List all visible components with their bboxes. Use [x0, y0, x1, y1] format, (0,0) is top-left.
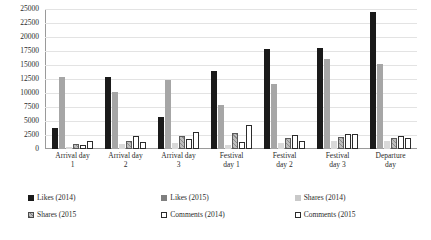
- bar-group: [311, 9, 364, 149]
- x-tick-label: Festivalday 3: [311, 151, 364, 169]
- bar-group: [364, 9, 417, 149]
- bar-group: [152, 9, 205, 149]
- legend-item[interactable]: Comments (2014): [161, 206, 294, 223]
- y-tick-label: 12500: [20, 75, 39, 83]
- bar: [112, 92, 118, 149]
- bar: [126, 141, 132, 149]
- legend-item[interactable]: Shares (2014): [295, 189, 428, 206]
- legend-swatch-icon: [295, 195, 301, 201]
- bar: [271, 84, 277, 149]
- y-tick-label: 15000: [20, 61, 39, 69]
- bar: [331, 141, 337, 149]
- y-tick-label: 2500: [24, 131, 39, 139]
- bar: [225, 145, 231, 149]
- bar: [246, 125, 252, 149]
- bar: [299, 141, 305, 149]
- bar: [398, 136, 404, 149]
- bar: [140, 142, 146, 149]
- legend-item[interactable]: Comments (2015: [295, 206, 428, 223]
- legend-label: Shares (2014): [304, 193, 346, 202]
- bar: [133, 136, 139, 149]
- bar: [165, 80, 171, 149]
- bar: [73, 144, 79, 149]
- x-axis-labels: Arrival day1Arrival day2Arrival day3Fest…: [46, 151, 417, 169]
- x-tick-label: Arrival day1: [46, 151, 99, 169]
- chart-legend: Likes (2014)Likes (2015)Shares (2014)Sha…: [28, 189, 428, 223]
- legend-swatch-icon: [161, 212, 167, 218]
- bar: [186, 139, 192, 149]
- legend-label: Likes (2014): [37, 193, 76, 202]
- bar: [87, 141, 93, 149]
- bar: [239, 142, 245, 149]
- bar: [119, 144, 125, 149]
- bar: [405, 138, 411, 149]
- legend-item[interactable]: Likes (2014): [28, 189, 161, 206]
- bar: [179, 136, 185, 149]
- bar: [317, 48, 323, 149]
- legend-swatch-icon: [161, 195, 167, 201]
- bar: [324, 59, 330, 149]
- legend-swatch-icon: [295, 212, 301, 218]
- y-tick-label: 20000: [20, 33, 39, 41]
- bar: [377, 64, 383, 149]
- bar: [345, 134, 351, 149]
- x-tick-label: Arrival day3: [152, 151, 205, 169]
- x-tick-label: Arrival day2: [99, 151, 152, 169]
- bar: [193, 132, 199, 149]
- bar: [352, 134, 358, 149]
- y-tick-label: 7500: [24, 103, 39, 111]
- y-tick-label: 17500: [20, 47, 39, 55]
- bar-group: [46, 9, 99, 149]
- bar: [292, 135, 298, 149]
- legend-label: Comments (2014): [170, 210, 224, 219]
- bar: [285, 138, 291, 149]
- y-tick-label: 25000: [20, 5, 39, 13]
- bar: [370, 12, 376, 149]
- bar: [232, 133, 238, 149]
- bar: [338, 137, 344, 149]
- bar-group: [258, 9, 311, 149]
- legend-item[interactable]: Shares (2015: [28, 206, 161, 223]
- bar: [264, 49, 270, 149]
- legend-label: Likes (2015): [170, 193, 209, 202]
- bar: [66, 147, 72, 149]
- bar-groups: [46, 9, 417, 149]
- legend-swatch-icon: [28, 195, 34, 201]
- bar: [52, 128, 58, 149]
- bar: [218, 105, 224, 149]
- y-tick-label: 5000: [24, 117, 39, 125]
- bar: [384, 141, 390, 149]
- bar: [391, 138, 397, 149]
- bar-group: [205, 9, 258, 149]
- legend-item[interactable]: Likes (2015): [161, 189, 294, 206]
- bar: [172, 143, 178, 149]
- bar: [105, 77, 111, 149]
- bar-group: [99, 9, 152, 149]
- y-tick-label: 10000: [20, 89, 39, 97]
- x-tick-label: Festivalday 1: [205, 151, 258, 169]
- bar-chart: 2500022500200001750015000125001000075005…: [0, 0, 431, 240]
- bar: [211, 71, 217, 149]
- legend-swatch-icon: [28, 212, 34, 218]
- bar: [158, 117, 164, 149]
- y-tick-label: 0: [35, 145, 39, 153]
- y-tick-label: 22500: [20, 19, 39, 27]
- bar: [59, 77, 65, 149]
- bar: [80, 145, 86, 149]
- x-tick-label: Festivalday 2: [258, 151, 311, 169]
- x-tick-label: Departureday: [364, 151, 417, 169]
- legend-label: Shares (2015: [37, 210, 76, 219]
- y-axis: 2500022500200001750015000125001000075005…: [0, 0, 43, 149]
- legend-label: Comments (2015: [304, 210, 356, 219]
- bar: [278, 143, 284, 149]
